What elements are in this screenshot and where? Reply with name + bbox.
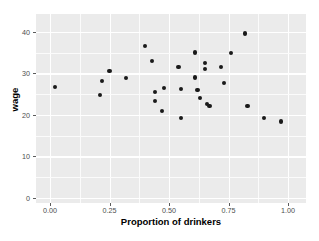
data-point bbox=[160, 109, 164, 113]
y-axis-tick-label: 20 bbox=[22, 110, 30, 119]
data-point bbox=[222, 81, 226, 85]
y-axis-tick-label: 30 bbox=[22, 69, 30, 78]
y-axis-tick-label: 40 bbox=[22, 27, 30, 36]
gridline-y-major bbox=[36, 156, 306, 157]
gridline-x-major bbox=[50, 14, 51, 203]
data-point bbox=[176, 65, 180, 69]
gridline-y-minor bbox=[36, 136, 306, 137]
gridline-y-minor bbox=[36, 94, 306, 95]
gridline-x-major bbox=[229, 14, 230, 203]
y-axis-tick bbox=[33, 198, 36, 199]
data-point bbox=[245, 104, 249, 108]
data-point bbox=[229, 51, 233, 55]
gridline-y-major bbox=[36, 73, 306, 74]
gridline-x-major bbox=[288, 14, 289, 203]
x-axis-tick-label: 1.00 bbox=[281, 206, 295, 215]
data-point bbox=[195, 88, 199, 92]
y-axis-tick-label: 10 bbox=[22, 152, 30, 161]
gridline-x-minor bbox=[258, 14, 259, 203]
gridline-y-major bbox=[36, 198, 306, 199]
gridline-y-major bbox=[36, 32, 306, 33]
x-axis-tick-label: 0.75 bbox=[222, 206, 236, 215]
gridline-y-minor bbox=[36, 53, 306, 54]
gridline-y-minor bbox=[36, 177, 306, 178]
y-axis-title: wage bbox=[9, 70, 20, 130]
y-axis-tick bbox=[33, 73, 36, 74]
data-point bbox=[207, 104, 211, 108]
x-axis-tick-label: 0.50 bbox=[162, 206, 176, 215]
scatter-plot-figure: 0.000.250.500.751.00010203040 Proportion… bbox=[0, 0, 319, 241]
x-axis-title: Proportion of drinkers bbox=[36, 216, 306, 227]
data-point bbox=[107, 69, 111, 73]
data-point bbox=[193, 75, 197, 79]
data-point bbox=[243, 31, 247, 35]
gridline-x-minor bbox=[80, 14, 81, 203]
data-point bbox=[179, 87, 183, 91]
data-point bbox=[153, 90, 157, 94]
y-axis-tick bbox=[33, 156, 36, 157]
data-point bbox=[203, 67, 207, 71]
gridline-x-minor bbox=[199, 14, 200, 203]
data-point bbox=[53, 85, 57, 89]
plot-panel bbox=[36, 14, 306, 203]
gridline-x-major bbox=[169, 14, 170, 203]
data-point bbox=[98, 93, 102, 97]
x-axis-tick-label: 0.25 bbox=[103, 206, 117, 215]
gridline-x-minor bbox=[139, 14, 140, 203]
x-axis-tick-label: 0.00 bbox=[43, 206, 57, 215]
y-axis-tick bbox=[33, 32, 36, 33]
y-axis-tick bbox=[33, 115, 36, 116]
data-point bbox=[193, 50, 197, 54]
data-point bbox=[279, 119, 283, 123]
gridline-x-major bbox=[110, 14, 111, 203]
y-axis-tick-label: 0 bbox=[26, 194, 30, 203]
